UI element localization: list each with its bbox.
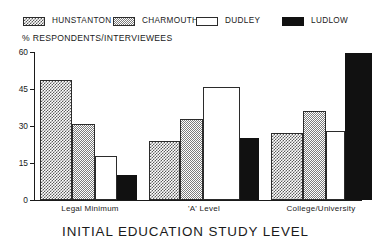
plot-area: 60 45 30 15 0 Legal Minimum 'A': [34, 52, 362, 200]
legend-entry-ludlow: LUDLOW: [282, 12, 348, 30]
legend-entry-hunstanton: HUNSTANTON: [23, 12, 112, 30]
y-tick-label-15: 15: [19, 159, 28, 167]
legend-swatch-hunstanton: [23, 17, 45, 26]
bar-hunstanton-college-university: [271, 133, 303, 200]
legend-label-dudley: DUDLEY: [225, 17, 260, 25]
legend-label-ludlow: LUDLOW: [311, 17, 348, 25]
legend-swatch-ludlow: [282, 17, 304, 26]
legend-swatch-dudley: [196, 17, 218, 26]
chart-title: INITIAL EDUCATION STUDY LEVEL: [0, 224, 371, 239]
bar-dudley-college-university: [326, 131, 345, 200]
y-tick-45: 45: [34, 89, 35, 90]
y-tick-label-45: 45: [19, 85, 28, 93]
bar-charmouth-legal-minimum: [72, 124, 95, 201]
bar-dudley-legal-minimum: [95, 156, 117, 200]
y-tick-30: 30: [34, 126, 35, 127]
legend-entry-dudley: DUDLEY: [196, 12, 260, 30]
bar-ludlow-legal-minimum: [117, 175, 137, 200]
x-tick-label-college-university: College/University: [287, 204, 356, 213]
bar-charmouth-college-university: [303, 111, 326, 200]
bar-dudley-a-level: [203, 87, 240, 201]
chart-legend: HUNSTANTON CHARMOUTH DUDLEY LUDLOW: [0, 12, 371, 30]
y-axis-title: % RESPONDENTS/INTERVIEWEES: [22, 33, 172, 43]
y-tick-60: 60: [34, 52, 35, 53]
y-tick-15: 15: [34, 163, 35, 164]
x-tick-label-a-level: 'A' Level: [188, 204, 220, 213]
bar-charmouth-a-level: [180, 119, 203, 200]
legend-swatch-charmouth: [113, 17, 135, 26]
y-tick-label-30: 30: [19, 122, 28, 130]
legend-entry-charmouth: CHARMOUTH: [113, 12, 198, 30]
bar-hunstanton-legal-minimum: [40, 80, 72, 200]
legend-label-hunstanton: HUNSTANTON: [52, 17, 112, 25]
x-tick-label-legal-minimum: Legal Minimum: [61, 204, 119, 213]
y-tick-label-0: 0: [23, 196, 28, 204]
bar-ludlow-a-level: [240, 138, 259, 200]
legend-label-charmouth: CHARMOUTH: [142, 17, 198, 25]
y-tick-0: 0: [34, 200, 35, 201]
x-axis-line: [34, 200, 362, 201]
y-tick-label-60: 60: [19, 48, 28, 56]
bar-ludlow-college-university: [345, 53, 372, 200]
bar-hunstanton-a-level: [149, 141, 180, 200]
